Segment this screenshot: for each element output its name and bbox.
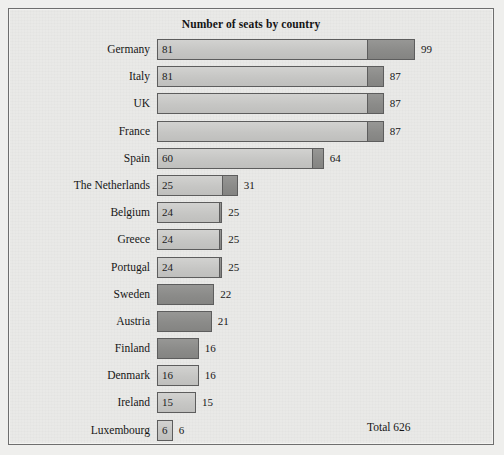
bar-wrapper: 25 (157, 175, 238, 196)
bar-wrapper (157, 284, 214, 305)
bar-segment-1995 (158, 312, 211, 331)
bar-wrapper (157, 93, 384, 114)
bar-inner-value: 24 (162, 203, 173, 222)
bar-wrapper: 6 (157, 420, 173, 441)
bar-segment-1989: 25 (158, 176, 222, 195)
bar-row: Italy8187 (9, 66, 493, 93)
bar-total-value: 87 (390, 66, 401, 87)
bar-total-value: 16 (205, 365, 216, 386)
bar-segment-1989: 16 (158, 366, 198, 385)
bar-wrapper: 81 (157, 66, 384, 87)
bar-row: Sweden22 (9, 284, 493, 311)
bar-inner-value: 25 (162, 176, 173, 195)
bar-segment-1995 (312, 149, 322, 168)
bar-segment-1995 (367, 67, 383, 86)
bar-segment-1989: 24 (158, 203, 219, 222)
stacked-bar (157, 93, 384, 114)
stacked-bar (157, 121, 384, 142)
total-annotation: Total 626 (367, 421, 411, 433)
bar-row-label: Denmark (9, 365, 150, 386)
bar-wrapper: 60 (157, 148, 324, 169)
bar-row-label: Italy (9, 66, 150, 87)
bar-segment-1989 (158, 94, 367, 113)
bar-wrapper: 24 (157, 202, 222, 223)
bar-row-label: Portugal (9, 257, 150, 278)
chart-figure: Number of seats by country Germany8199It… (8, 8, 494, 445)
bar-inner-value: 16 (162, 366, 173, 385)
bar-row: France87 (9, 121, 493, 148)
stacked-bar: 25 (157, 175, 238, 196)
bar-segment-1995 (158, 285, 213, 304)
bar-row: Belgium2425 (9, 202, 493, 229)
bar-row-label: Germany (9, 39, 150, 60)
bar-row-label: Belgium (9, 202, 150, 223)
bar-wrapper: 24 (157, 229, 222, 250)
bar-row: Austria21 (9, 311, 493, 338)
stacked-bar: 81 (157, 39, 415, 60)
bar-inner-value: 81 (162, 40, 173, 59)
bar-segment-1995 (367, 94, 383, 113)
stacked-bar (157, 311, 212, 332)
bar-segment-1989 (158, 122, 367, 141)
bar-row-label: Ireland (9, 392, 150, 413)
bar-segment-1989: 81 (158, 40, 367, 59)
bar-segment-1995 (367, 122, 383, 141)
bar-inner-value: 24 (162, 258, 173, 277)
bar-total-value: 22 (220, 284, 231, 305)
bar-wrapper: 16 (157, 365, 199, 386)
stacked-bar: 81 (157, 66, 384, 87)
stacked-bar (157, 284, 214, 305)
bar-inner-value: 24 (162, 230, 173, 249)
bar-total-value: 16 (205, 338, 216, 359)
stacked-bar: 15 (157, 392, 196, 413)
bar-segment-1989: 24 (158, 258, 219, 277)
bar-row: UK87 (9, 93, 493, 120)
bar-total-value: 15 (202, 392, 213, 413)
bar-row-label: France (9, 121, 150, 142)
stacked-bar: 24 (157, 257, 222, 278)
bar-total-value: 25 (228, 229, 239, 250)
bar-row: Denmark1616 (9, 365, 493, 392)
bar-row-label: UK (9, 93, 150, 114)
bar-row: Finland16 (9, 338, 493, 365)
bar-wrapper: 24 (157, 257, 222, 278)
bar-segment-1995 (219, 230, 222, 249)
bar-wrapper (157, 311, 212, 332)
bar-row-label: The Netherlands (9, 175, 150, 196)
chart-title: Number of seats by country (9, 18, 493, 30)
bar-total-value: 87 (390, 121, 401, 142)
bar-wrapper: 15 (157, 392, 196, 413)
bar-inner-value: 60 (162, 149, 173, 168)
bar-row-label: Austria (9, 311, 150, 332)
bar-total-value: 87 (390, 93, 401, 114)
bar-row: Ireland1515 (9, 392, 493, 419)
bar-total-value: 25 (228, 257, 239, 278)
bar-row: Spain6064 (9, 148, 493, 175)
bar-row-label: Sweden (9, 284, 150, 305)
bar-segment-1989: 15 (158, 393, 195, 412)
bar-inner-value: 15 (162, 393, 173, 412)
bar-inner-value: 6 (162, 421, 168, 440)
bar-row: Luxembourg66 (9, 420, 493, 445)
bar-total-value: 31 (244, 175, 255, 196)
bar-wrapper (157, 121, 384, 142)
bar-segment-1995 (367, 40, 414, 59)
bar-total-value: 25 (228, 202, 239, 223)
bar-row: The Netherlands2531 (9, 175, 493, 202)
bar-segment-1989: 6 (158, 421, 172, 440)
bar-segment-1995 (219, 258, 222, 277)
stacked-bar: 6 (157, 420, 173, 441)
bar-segment-1989: 24 (158, 230, 219, 249)
bar-segment-1995 (219, 203, 222, 222)
bar-inner-value: 81 (162, 67, 173, 86)
bar-total-value: 64 (330, 148, 341, 169)
stacked-bar: 24 (157, 202, 222, 223)
bar-rows: Germany8199Italy8187UK87France87Spain606… (9, 39, 493, 445)
bar-row: Germany8199 (9, 39, 493, 66)
bar-total-value: 99 (421, 39, 432, 60)
bar-segment-1995 (222, 176, 237, 195)
bar-total-value: 6 (179, 420, 185, 441)
bar-wrapper: 81 (157, 39, 415, 60)
bar-segment-1995 (158, 339, 198, 358)
bar-row-label: Spain (9, 148, 150, 169)
